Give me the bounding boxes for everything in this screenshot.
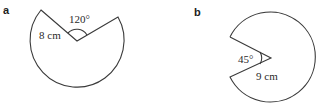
diagram-canvas: a 120° 8 cm b 45° 9 cm bbox=[0, 0, 325, 110]
figure-b: b 45° 9 cm bbox=[194, 6, 315, 102]
figure-b-radius-label: 9 cm bbox=[256, 70, 278, 82]
figure-a-angle-label: 120° bbox=[69, 13, 90, 25]
figure-b-label: b bbox=[194, 6, 201, 18]
figure-a-radius-label: 8 cm bbox=[39, 29, 61, 41]
figure-a-label: a bbox=[3, 4, 10, 16]
figure-a-angle-arc bbox=[68, 29, 87, 35]
figure-a: a 120° 8 cm bbox=[3, 4, 124, 87]
figure-b-angle-label: 45° bbox=[238, 53, 253, 65]
figure-b-angle-arc bbox=[260, 52, 262, 64]
